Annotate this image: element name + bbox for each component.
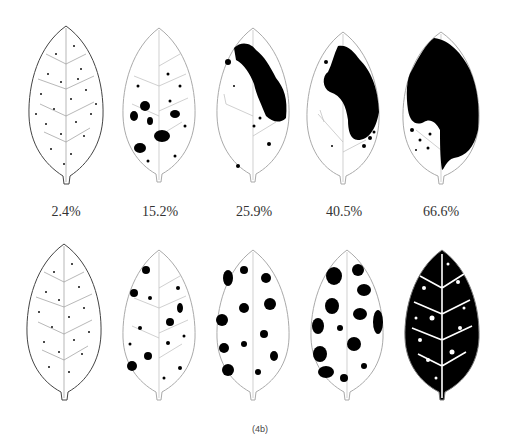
leaf-bottom-5	[402, 248, 482, 402]
severity-label-3: 25.9%	[214, 204, 294, 220]
severity-label-5: 66.6%	[401, 204, 481, 220]
leaf-top-3	[214, 26, 292, 184]
leaf-top-4	[304, 30, 382, 186]
leaf-bottom-4	[308, 248, 386, 402]
leaf-bottom-3	[214, 248, 292, 402]
severity-label-2: 15.2%	[120, 204, 200, 220]
leaf-bottom-2	[120, 248, 198, 402]
leaf-top-2	[120, 26, 198, 184]
leaf-bottom-1	[24, 242, 104, 402]
leaf-top-1	[26, 24, 106, 186]
severity-label-4: 40.5%	[304, 204, 384, 220]
figure-caption: (4b)	[235, 424, 285, 434]
leaf-top-5	[400, 30, 482, 186]
leaf-severity-figure: 2.4% 15.2% 25.9% 40.5% 66.6%	[0, 0, 510, 447]
severity-label-1: 2.4%	[26, 204, 106, 220]
